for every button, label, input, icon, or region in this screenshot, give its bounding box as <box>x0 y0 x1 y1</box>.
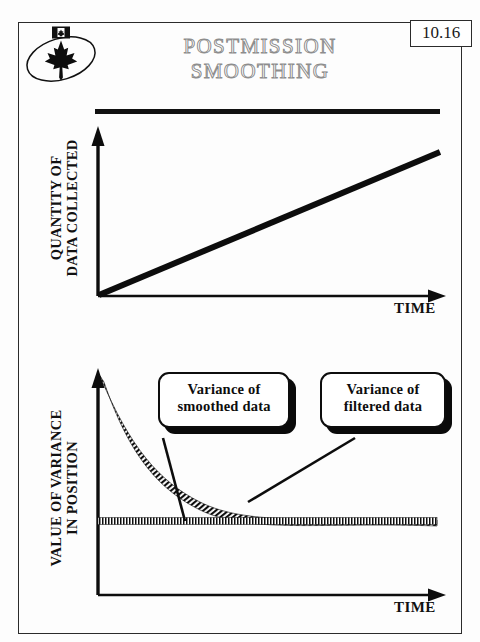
chart-1-y-label-line-1: QUANTITY OF <box>48 128 64 288</box>
chart-2-y-label-line-1: VALUE OF VARIANCE <box>48 388 64 588</box>
chart-1-x-axis-label: TIME <box>394 300 436 317</box>
callout-filtered-line-1: Variance of <box>322 381 444 398</box>
callout-variance-of-filtered-data: Variance of filtered data <box>320 372 446 428</box>
callout-smoothed-line-2: smoothed data <box>160 398 288 415</box>
slide-page: 10.16 POSTMISSION SMOOTHING QUANTITY OF … <box>0 0 480 642</box>
chart-1-y-axis-label: QUANTITY OF DATA COLLECTED <box>48 128 80 288</box>
chart-2-y-label-line-2: IN POSITION <box>64 388 80 588</box>
chart-2-y-axis-label: VALUE OF VARIANCE IN POSITION <box>48 388 80 588</box>
chart-quantity-of-data-collected: QUANTITY OF DATA COLLECTED TIME <box>0 0 480 330</box>
chart-value-of-variance-in-position: Variance of smoothed data Variance of fi… <box>0 330 480 642</box>
callout-variance-of-smoothed-data: Variance of smoothed data <box>158 372 290 428</box>
callout-filtered-line-2: filtered data <box>322 398 444 415</box>
chart-2-x-axis-label: TIME <box>394 599 436 616</box>
callout-smoothed-line-1: Variance of <box>160 381 288 398</box>
chart-1-y-label-line-2: DATA COLLECTED <box>64 128 80 288</box>
callout-filtered-leader <box>248 438 355 502</box>
